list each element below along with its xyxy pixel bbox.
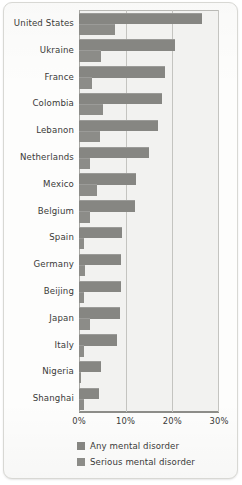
category-label: Italy xyxy=(0,340,74,350)
bar-chart: United StatesUkraineFranceColombiaLebano… xyxy=(0,0,242,485)
bar-any-mental-disorder xyxy=(79,66,165,77)
bar-serious-mental-disorder xyxy=(79,104,103,115)
chart-row: Beijing xyxy=(0,278,242,305)
bar-any-mental-disorder xyxy=(79,388,99,399)
bar-serious-mental-disorder xyxy=(79,131,100,142)
chart-row: Italy xyxy=(0,332,242,359)
bar-any-mental-disorder xyxy=(79,147,149,158)
legend-label: Any mental disorder xyxy=(90,441,179,451)
bar-any-mental-disorder xyxy=(79,254,121,265)
bar-serious-mental-disorder xyxy=(79,238,84,249)
bar-any-mental-disorder xyxy=(79,120,158,131)
bar-any-mental-disorder xyxy=(79,227,122,238)
bar-serious-mental-disorder xyxy=(79,184,97,195)
bar-any-mental-disorder xyxy=(79,93,162,104)
category-label: Belgium xyxy=(0,206,74,216)
x-axis-line xyxy=(79,412,219,413)
bar-serious-mental-disorder xyxy=(79,158,90,169)
category-label: Lebanon xyxy=(0,125,74,135)
category-label: Ukraine xyxy=(0,45,74,55)
chart-row: Germany xyxy=(0,251,242,278)
chart-row: Belgium xyxy=(0,198,242,225)
chart-row: Nigeria xyxy=(0,358,242,385)
category-label: Germany xyxy=(0,259,74,269)
chart-row: France xyxy=(0,64,242,91)
x-tick-0pct: 0% xyxy=(65,416,93,426)
chart-legend: Any mental disorderSerious mental disord… xyxy=(77,439,237,471)
bar-serious-mental-disorder xyxy=(79,399,84,410)
bar-any-mental-disorder xyxy=(79,39,175,50)
category-label: Netherlands xyxy=(0,152,74,162)
chart-row: Spain xyxy=(0,224,242,251)
chart-row: Mexico xyxy=(0,171,242,198)
bar-any-mental-disorder xyxy=(79,281,121,292)
legend-item: Serious mental disorder xyxy=(77,455,237,469)
bar-any-mental-disorder xyxy=(79,200,135,211)
category-label: Spain xyxy=(0,232,74,242)
chart-row: Japan xyxy=(0,305,242,332)
bar-serious-mental-disorder xyxy=(79,318,90,329)
bar-serious-mental-disorder xyxy=(79,292,84,303)
bar-any-mental-disorder xyxy=(79,173,136,184)
bar-serious-mental-disorder xyxy=(79,211,90,222)
chart-row: Lebanon xyxy=(0,117,242,144)
bar-serious-mental-disorder xyxy=(79,77,92,88)
legend-item: Any mental disorder xyxy=(77,439,237,453)
category-label: Nigeria xyxy=(0,366,74,376)
bar-any-mental-disorder xyxy=(79,361,101,372)
bar-any-mental-disorder xyxy=(79,334,117,345)
chart-row: United States xyxy=(0,10,242,37)
category-label: Beijing xyxy=(0,286,74,296)
x-tick-30pct: 30% xyxy=(205,416,233,426)
chart-row: Netherlands xyxy=(0,144,242,171)
category-label: Japan xyxy=(0,313,74,323)
category-label: France xyxy=(0,72,74,82)
bar-serious-mental-disorder xyxy=(79,24,115,35)
category-label: Colombia xyxy=(0,98,74,108)
chart-row: Colombia xyxy=(0,90,242,117)
legend-swatch-icon xyxy=(77,442,85,450)
category-label: United States xyxy=(0,18,74,28)
bar-serious-mental-disorder xyxy=(79,50,101,61)
bar-any-mental-disorder xyxy=(79,307,120,318)
chart-row: Shanghai xyxy=(0,385,242,412)
legend-label: Serious mental disorder xyxy=(90,457,195,467)
bar-any-mental-disorder xyxy=(79,13,202,24)
chart-row: Ukraine xyxy=(0,37,242,64)
bar-serious-mental-disorder xyxy=(79,372,81,383)
category-label: Shanghai xyxy=(0,393,74,403)
x-tick-10pct: 10% xyxy=(112,416,140,426)
legend-swatch-icon xyxy=(77,458,85,466)
bar-serious-mental-disorder xyxy=(79,345,84,356)
category-label: Mexico xyxy=(0,179,74,189)
bar-serious-mental-disorder xyxy=(79,265,85,276)
x-tick-20pct: 20% xyxy=(158,416,186,426)
